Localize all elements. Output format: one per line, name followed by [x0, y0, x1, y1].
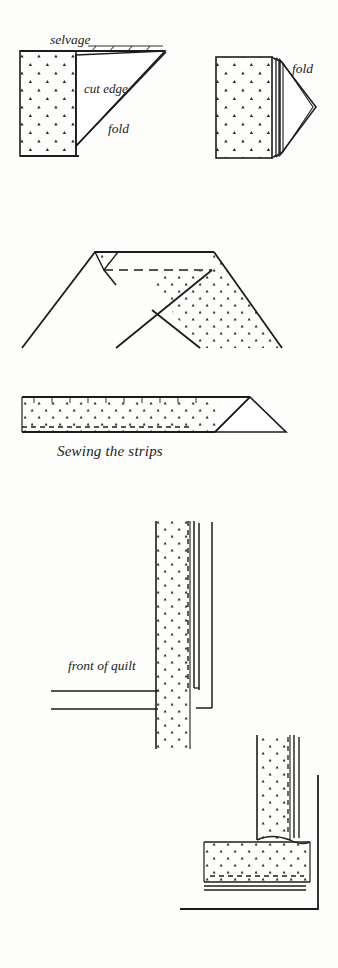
label-cut-edge: cut edge	[84, 82, 128, 95]
label-fold-left: fold	[108, 122, 129, 136]
figure-mitered-corner	[180, 735, 318, 909]
caption-sewing-the-strips: Sewing the strips	[57, 444, 163, 459]
left-apex-tab	[95, 252, 118, 270]
label-front-of-quilt: front of quilt	[68, 659, 136, 673]
binding-band-vertical	[156, 521, 190, 749]
strip-right-printed	[152, 252, 282, 348]
figure-binding-on-quilt	[51, 521, 212, 749]
figure-sewn-strip	[22, 397, 286, 432]
diagram-page: selvage cut edge fold fold Sewing the st…	[0, 0, 338, 968]
quilt-binding-diagram-canvas	[0, 0, 338, 968]
figure-joining-strips	[22, 252, 282, 348]
corner-binding-vertical	[257, 735, 290, 840]
strip-left-plain	[22, 252, 95, 348]
label-selvage: selvage	[50, 33, 90, 47]
fabric-panel-printed	[20, 51, 76, 156]
figure-fold-step-1	[20, 46, 166, 156]
fabric-panel-printed-2	[216, 57, 272, 158]
label-fold-right: fold	[292, 62, 313, 76]
sewn-strip-end-triangle	[215, 397, 286, 432]
strip-left-plain-edge2	[104, 270, 116, 285]
